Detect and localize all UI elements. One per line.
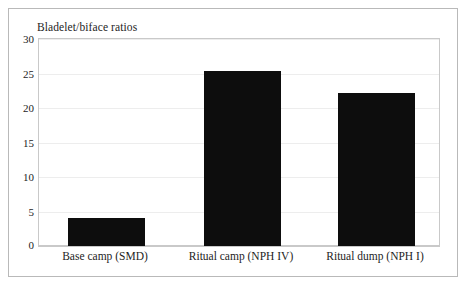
x-tick-label-ritual-camp-nph-iv: Ritual camp (NPH IV)	[189, 250, 293, 264]
y-tick-label-5: 5	[8, 206, 34, 217]
bar-base-camp-smd	[68, 218, 145, 246]
bar-ritual-dump-nph-i	[338, 93, 415, 246]
chart-title: Bladelet/biface ratios	[37, 21, 137, 33]
x-tick-label-base-camp-smd: Base camp (SMD)	[62, 250, 148, 264]
y-tick-label-30: 30	[8, 34, 34, 45]
y-tick-label-10: 10	[8, 172, 34, 183]
y-axis: 30 25 20 15 10 5 0	[4, 38, 34, 247]
gridline-30	[39, 39, 439, 40]
y-tick-label-15: 15	[8, 137, 34, 148]
y-tick-label-20: 20	[8, 103, 34, 114]
plot-area	[38, 38, 440, 247]
x-axis: Base camp (SMD) Ritual camp (NPH IV) Rit…	[38, 250, 440, 274]
y-tick-label-0: 0	[8, 240, 34, 251]
bar-ritual-camp-nph-iv	[204, 71, 281, 246]
y-tick-label-25: 25	[8, 68, 34, 79]
x-tick-label-ritual-dump-nph-i: Ritual dump (NPH I)	[326, 250, 423, 264]
bar-chart-figure: Bladelet/biface ratios 30 25 20 15 10 5 …	[0, 0, 472, 286]
